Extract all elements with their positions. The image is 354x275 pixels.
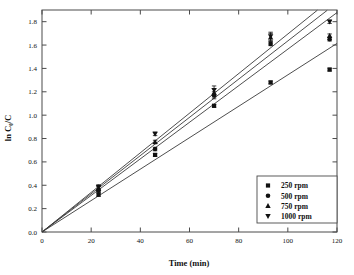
y-tick-label: 0.6 xyxy=(28,158,37,166)
data-point-circle xyxy=(266,193,271,198)
y-tick-label: 1.6 xyxy=(28,42,37,50)
x-tick-label: 20 xyxy=(88,237,96,245)
y-tick-label: 0.0 xyxy=(28,229,37,237)
data-point-square xyxy=(269,80,273,84)
data-point-circle xyxy=(153,147,158,152)
legend-label: 500 rpm xyxy=(281,192,309,201)
x-tick-label: 120 xyxy=(332,237,343,245)
scatter-plot: 020406080100120 0.00.20.40.60.81.01.21.4… xyxy=(0,0,354,275)
y-tick-label: 1.0 xyxy=(28,112,37,120)
x-tick-label: 40 xyxy=(137,237,145,245)
data-point-square xyxy=(96,193,100,197)
plot-background xyxy=(0,0,354,275)
legend-label: 250 rpm xyxy=(281,181,309,190)
x-tick-label: 60 xyxy=(186,237,194,245)
x-axis-title: Time (min) xyxy=(169,258,210,268)
y-axis-title: ln C₀/C xyxy=(3,115,13,141)
data-point-circle xyxy=(268,42,273,47)
y-tick-label: 0.4 xyxy=(28,182,37,190)
y-tick-label: 0.8 xyxy=(28,135,37,143)
legend-label: 750 rpm xyxy=(281,202,309,211)
data-point-square xyxy=(153,153,157,157)
x-tick-label: 80 xyxy=(235,237,243,245)
data-point-square xyxy=(212,104,216,108)
legend-label: 1000 rpm xyxy=(281,212,312,221)
y-tick-label: 0.2 xyxy=(28,205,37,213)
y-tick-label: 1.8 xyxy=(28,18,37,26)
x-tick-label: 0 xyxy=(40,237,44,245)
x-tick-label: 100 xyxy=(283,237,294,245)
data-point-square xyxy=(266,183,270,187)
figure: 020406080100120 0.00.20.40.60.81.01.21.4… xyxy=(0,0,354,275)
y-tick-label: 1.4 xyxy=(28,65,37,73)
data-point-square xyxy=(328,67,332,71)
legend: 250 rpm500 rpm750 rpm1000 rpm xyxy=(257,176,337,223)
y-tick-label: 1.2 xyxy=(28,88,37,96)
